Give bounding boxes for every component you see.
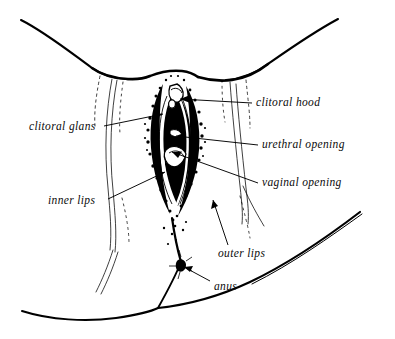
- label-outer-lips: outer lips: [218, 248, 265, 260]
- figure-background: [0, 0, 395, 339]
- anatomy-illustration: [0, 0, 395, 339]
- label-urethral-opening: urethral opening: [262, 139, 345, 151]
- anatomical-figure: clitoral hood urethral opening vaginal o…: [0, 0, 395, 339]
- label-vaginal-opening: vaginal opening: [262, 177, 342, 189]
- clitoral-glans-shape: [169, 100, 176, 108]
- label-clitoral-glans: clitoral glans: [29, 121, 96, 133]
- label-clitoral-hood: clitoral hood: [256, 97, 320, 109]
- label-anus: anus: [214, 281, 237, 293]
- label-inner-lips: inner lips: [48, 195, 95, 207]
